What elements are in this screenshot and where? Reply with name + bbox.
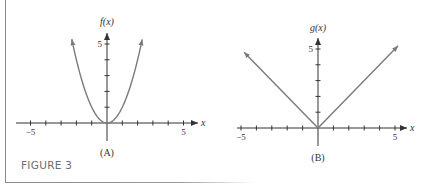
x-axis-label: x [200, 117, 206, 128]
graph-b: 5−55xg(x)(B) [236, 22, 415, 164]
x-tick-label: 5 [393, 132, 398, 142]
panel-label: (B) [311, 152, 324, 164]
graph-a: 5−55xf(x)(A) [16, 16, 206, 159]
function-line-right [318, 46, 398, 128]
function-line-left [244, 52, 318, 128]
x-tick-label: −5 [236, 132, 246, 142]
x-tick-label: −5 [26, 127, 36, 137]
curve-arrow-left [72, 39, 73, 43]
y-tick-label: 5 [98, 39, 103, 49]
figure-caption: FIGURE 3 [21, 159, 72, 171]
y-axis-label: g(x) [310, 22, 327, 34]
y-axis-label: f(x) [100, 16, 115, 28]
y-tick-label: 5 [309, 44, 314, 54]
x-tick-label: 5 [181, 127, 186, 137]
x-axis-label: x [409, 122, 415, 133]
panel-label: (A) [100, 147, 114, 159]
